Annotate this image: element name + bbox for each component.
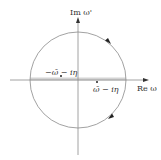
- pole-right-dot: [96, 81, 98, 83]
- pole-left-label: −ω̄ − iη: [45, 68, 78, 77]
- contour-diagram: Im ω' Re ω −ω̄ − iη ω̄ − iη: [0, 0, 161, 160]
- real-axis-arrow-icon: [143, 78, 149, 82]
- pole-right-label: ω̄ − iη: [93, 85, 119, 94]
- imag-axis-arrow-icon: [76, 17, 80, 23]
- real-axis-label: Re ω: [137, 84, 157, 93]
- contour-arrow-upper-icon: [105, 38, 111, 44]
- imag-axis-label: Im ω': [70, 8, 92, 17]
